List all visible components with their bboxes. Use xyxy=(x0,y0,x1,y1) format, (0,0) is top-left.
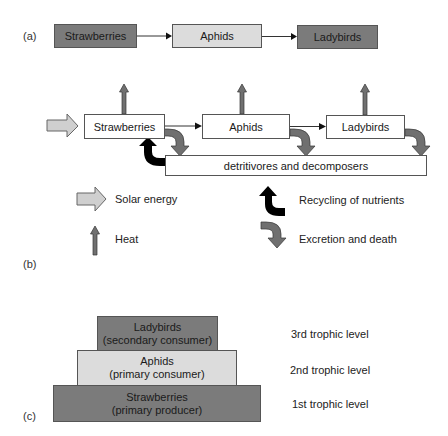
excretion-arrow-icon xyxy=(405,129,430,156)
pyramid-level-2-name: Aphids xyxy=(140,355,174,368)
pyramid-level-1-role: (primary producer) xyxy=(112,404,202,417)
trophic-level-1-label: 1st trophic level xyxy=(292,398,368,410)
solar-energy-arrow-icon xyxy=(47,114,78,137)
pyramid-level-1-name: Strawberries xyxy=(126,391,188,404)
flow-aphids: Aphids xyxy=(202,114,290,139)
heat-legend-icon xyxy=(91,226,100,255)
flow-detritivores-decomposers: detritivores and decomposers xyxy=(165,155,427,176)
excretion-arrow-icon xyxy=(290,129,315,156)
heat-arrow-icon xyxy=(238,84,247,114)
legend-excretion: Excretion and death xyxy=(299,233,397,245)
legend-solar-energy: Solar energy xyxy=(115,193,177,205)
feeding-arrow-icon xyxy=(165,123,202,130)
heat-arrow-icon xyxy=(361,84,370,115)
pyramid-level-1: Strawberries (primary producer) xyxy=(53,385,261,422)
trophic-level-3-label: 3rd trophic level xyxy=(291,328,369,340)
pyramid-level-2-role: (primary consumer) xyxy=(109,368,204,381)
recycling-legend-icon xyxy=(259,186,285,216)
recycling-arrow-icon xyxy=(139,137,165,166)
food-chain-arrows xyxy=(0,0,448,60)
pyramid-level-3-role: (secondary consumer) xyxy=(103,334,212,347)
pyramid-level-3-name: Ladybirds xyxy=(134,321,182,334)
flow-ladybirds: Ladybirds xyxy=(326,115,405,139)
flow-strawberries: Strawberries xyxy=(84,114,165,139)
arrow-aphids-to-ladybirds-icon xyxy=(262,33,297,40)
trophic-level-2-label: 2nd trophic level xyxy=(290,364,370,376)
panel-c-label: (c) xyxy=(23,410,36,422)
legend-heat: Heat xyxy=(115,233,138,245)
solar-energy-legend-icon xyxy=(77,187,106,211)
heat-arrow-icon xyxy=(120,84,129,114)
legend-recycling: Recycling of nutrients xyxy=(299,194,404,206)
excretion-arrow-icon xyxy=(164,129,189,156)
pyramid-level-3: Ladybirds (secondary consumer) xyxy=(97,316,218,351)
pyramid-level-2: Aphids (primary consumer) xyxy=(77,350,237,386)
excretion-legend-icon xyxy=(261,222,286,248)
arrow-strawberries-to-aphids-icon xyxy=(137,33,172,40)
